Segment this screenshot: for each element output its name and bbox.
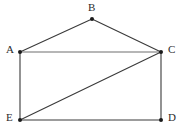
vertex-point-c	[159, 50, 163, 54]
vertex-label-b: B	[88, 2, 95, 13]
vertex-point-d	[159, 118, 163, 122]
vertex-label-c: C	[168, 44, 175, 55]
vertex-label-d: D	[168, 112, 176, 123]
vertex-label-e: E	[6, 112, 13, 123]
vertex-point-b	[90, 17, 94, 21]
vertex-point-a	[18, 50, 22, 54]
vertex-point-e	[18, 118, 22, 122]
geometry-figure: ABCDE	[0, 0, 185, 131]
figure-canvas	[0, 0, 185, 131]
vertex-label-a: A	[6, 44, 14, 55]
